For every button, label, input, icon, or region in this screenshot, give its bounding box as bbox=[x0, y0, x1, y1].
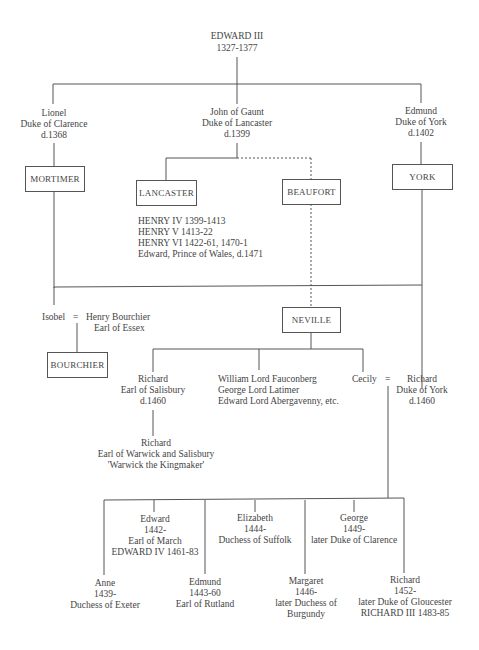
person-death: d.1460 bbox=[396, 396, 447, 407]
child-line: EDWARD IV 1461-83 bbox=[112, 547, 199, 558]
child-line: later Duke of Clarence bbox=[311, 535, 397, 546]
house-beaufort: BEAUFORT bbox=[282, 179, 341, 205]
son-title: Duke of York bbox=[395, 117, 446, 128]
person-name: Richard bbox=[121, 374, 185, 385]
king-line: HENRY IV 1399-1413 bbox=[138, 216, 263, 227]
child-line: RICHARD III 1483-85 bbox=[358, 608, 452, 619]
son-title: Duke of Clarence bbox=[21, 119, 88, 130]
house-bourchier: BOURCHIER bbox=[47, 352, 108, 378]
king-line: HENRY V 1413-22 bbox=[138, 227, 263, 238]
child-margaret: Margaret 1446- later Duchess of Burgundy bbox=[275, 576, 337, 620]
child-line: Earl of March bbox=[112, 536, 199, 547]
child-line: 1444- bbox=[218, 524, 291, 535]
child-line: later Duchess of bbox=[275, 598, 337, 609]
root-name: EDWARD III bbox=[211, 31, 264, 42]
son-edmund: Edmund Duke of York d.1402 bbox=[395, 106, 446, 139]
son-name: Lionel bbox=[21, 108, 88, 119]
richard-duke-of-york: Richard Duke of York d.1460 bbox=[396, 374, 447, 407]
child-line: 1439- bbox=[70, 589, 140, 600]
son-death: d.1368 bbox=[21, 130, 88, 141]
child-line: 1442- bbox=[112, 525, 199, 536]
person-title: Earl of Salisbury bbox=[121, 385, 185, 396]
warwick-the-kingmaker: Richard Earl of Warwick and Salisbury 'W… bbox=[98, 438, 215, 471]
child-line: Earl of Rutland bbox=[176, 599, 235, 610]
person-name: Richard bbox=[98, 438, 215, 449]
son-name: John of Gaunt bbox=[202, 107, 272, 118]
person-nickname: 'Warwick the Kingmaker' bbox=[98, 460, 215, 471]
person-title: Duke of York bbox=[396, 385, 447, 396]
son-line: William Lord Fauconberg bbox=[218, 374, 339, 385]
son-line: Edward Lord Abergavenny, etc. bbox=[218, 396, 339, 407]
son-death: d.1402 bbox=[395, 128, 446, 139]
house-neville: NEVILLE bbox=[282, 307, 341, 333]
child-line: 1446- bbox=[275, 587, 337, 598]
child-line: Edward bbox=[112, 514, 199, 525]
isobel: Isobel bbox=[42, 312, 65, 323]
child-line: George bbox=[311, 513, 397, 524]
child-anne: Anne 1439- Duchess of Exeter bbox=[70, 578, 140, 611]
house-mortimer: MORTIMER bbox=[25, 166, 85, 192]
child-richard: Richard 1452- later Duke of Gloucester R… bbox=[358, 575, 452, 619]
marriage-sign: = bbox=[73, 312, 78, 323]
lancaster-kings: HENRY IV 1399-1413 HENRY V 1413-22 HENRY… bbox=[138, 216, 263, 260]
son-line: George Lord Latimer bbox=[218, 385, 339, 396]
child-line: later Duke of Gloucester bbox=[358, 597, 452, 608]
child-line: Richard bbox=[358, 575, 452, 586]
child-line: Elizabeth bbox=[218, 513, 291, 524]
king-line: Edward, Prince of Wales, d.1471 bbox=[138, 249, 263, 260]
child-line: Burgundy bbox=[275, 609, 337, 620]
son-john-of-gaunt: John of Gaunt Duke of Lancaster d.1399 bbox=[202, 107, 272, 140]
house-lancaster: LANCASTER bbox=[136, 180, 197, 206]
richard-salisbury: Richard Earl of Salisbury d.1460 bbox=[121, 374, 185, 407]
son-death: d.1399 bbox=[202, 129, 272, 140]
house-york: YORK bbox=[392, 164, 453, 190]
child-line: Anne bbox=[70, 578, 140, 589]
child-line: Margaret bbox=[275, 576, 337, 587]
son-name: Edmund bbox=[395, 106, 446, 117]
child-line: 1449- bbox=[311, 524, 397, 535]
henry-bourchier-title: Earl of Essex bbox=[94, 323, 145, 334]
henry-bourchier: Henry Bourchier bbox=[86, 312, 150, 323]
cecily: Cecily bbox=[352, 374, 377, 385]
child-edward: Edward 1442- Earl of March EDWARD IV 146… bbox=[112, 514, 199, 558]
family-tree: EDWARD III 1327-1377 Lionel Duke of Clar… bbox=[0, 0, 479, 650]
child-line: 1452- bbox=[358, 586, 452, 597]
child-line: Edmund bbox=[176, 577, 235, 588]
son-lionel: Lionel Duke of Clarence d.1368 bbox=[21, 108, 88, 141]
child-elizabeth: Elizabeth 1444- Duchess of Suffolk bbox=[218, 513, 291, 546]
person-death: d.1460 bbox=[121, 396, 185, 407]
king-line: HENRY VI 1422-61, 1470-1 bbox=[138, 238, 263, 249]
child-line: Duchess of Exeter bbox=[70, 600, 140, 611]
tree-connectors bbox=[0, 0, 479, 650]
person-name: Richard bbox=[396, 374, 447, 385]
edward-iii: EDWARD III 1327-1377 bbox=[211, 31, 264, 54]
other-neville-sons: William Lord Fauconberg George Lord Lati… bbox=[218, 374, 339, 407]
child-george: George 1449- later Duke of Clarence bbox=[311, 513, 397, 546]
child-edmund: Edmund 1443-60 Earl of Rutland bbox=[176, 577, 235, 610]
root-dates: 1327-1377 bbox=[211, 43, 264, 54]
child-line: 1443-60 bbox=[176, 588, 235, 599]
son-title: Duke of Lancaster bbox=[202, 118, 272, 129]
marriage-sign: = bbox=[385, 374, 390, 385]
child-line: Duchess of Suffolk bbox=[218, 535, 291, 546]
person-title: Earl of Warwick and Salisbury bbox=[98, 449, 215, 460]
